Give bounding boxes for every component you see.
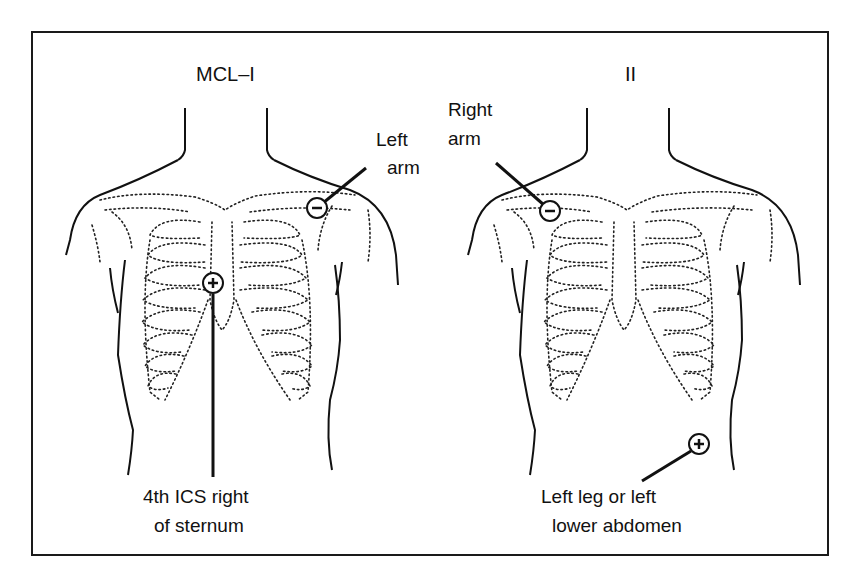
label-right-arm-line1: Right — [448, 98, 492, 122]
leader-line-left-leg — [642, 451, 691, 481]
torso-diagrams — [0, 0, 861, 584]
label-4th-ics-line1: 4th ICS right — [143, 485, 249, 509]
positive-electrode-left-leg — [689, 434, 709, 454]
negative-electrode-left-arm — [307, 198, 327, 218]
panel-title-mcl1: MCL–I — [196, 62, 255, 86]
label-right-arm-line2: arm — [448, 127, 481, 151]
negative-electrode-right-arm — [540, 201, 560, 221]
torso-right-lead2 — [468, 108, 800, 475]
label-left-arm-line2: arm — [387, 156, 420, 180]
label-left-arm-line1: Left — [376, 128, 408, 152]
leader-line-left-arm — [323, 168, 366, 203]
positive-electrode-4th-ics — [203, 273, 223, 293]
panel-title-lead2: II — [625, 62, 636, 86]
label-left-leg-line2: lower abdomen — [552, 514, 682, 538]
torso-left-mcl1 — [66, 108, 398, 475]
label-4th-ics-line2: of sternum — [154, 514, 244, 538]
label-left-leg-line1: Left leg or left — [541, 485, 656, 509]
leader-line-right-arm — [496, 163, 544, 205]
